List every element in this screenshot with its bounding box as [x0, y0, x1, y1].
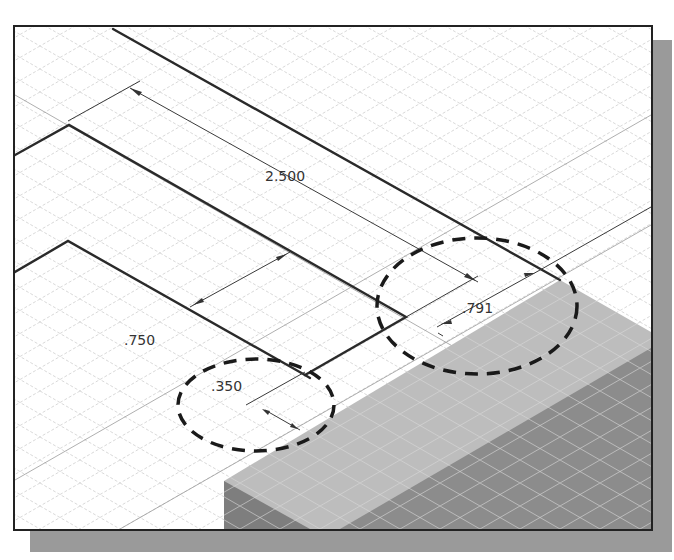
isometric-sketch: 2.500 .750 .350 .791 [0, 0, 674, 560]
dim-label-750: .750 [124, 332, 155, 348]
dim-label-350: .350 [211, 378, 242, 394]
dim-label-791: .791 [462, 300, 493, 316]
dim-label-2500: 2.500 [265, 168, 305, 184]
figure-canvas: 2.500 .750 .350 .791 [0, 0, 674, 560]
